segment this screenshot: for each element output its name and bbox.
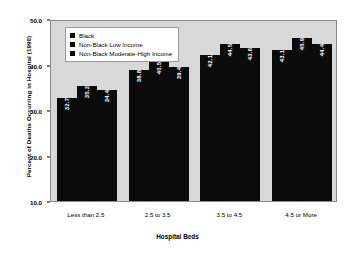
x-axis-title-text: Hospital Beds — [156, 233, 199, 240]
bar: 34.4 — [97, 90, 117, 201]
bar-value-label: 44.5 — [227, 44, 233, 56]
x-tick-label: 2.5 to 3.5 — [145, 211, 171, 218]
bar: 44.4 — [312, 44, 332, 201]
y-tick-label: 20.0 — [12, 153, 42, 160]
bar-group: 43.145.944.4 — [272, 21, 332, 201]
bar-group: 42.144.543.6 — [200, 21, 260, 201]
y-tick-label: 10.0 — [12, 199, 42, 206]
bar-value-label: 42.1 — [207, 55, 213, 67]
bar-value-label: 43.6 — [247, 48, 253, 60]
bar-value-label: 38.8 — [136, 70, 142, 82]
chart-figure: Percent of Deaths Occurring in Hospital … — [0, 0, 355, 257]
bar: 38.8 — [129, 70, 149, 201]
bar-value-label: 40.5 — [156, 62, 162, 74]
legend-label: Non-Black Low Income — [79, 40, 143, 49]
chart-legend: Black Non-Black Low Income Non-Black Mod… — [65, 27, 179, 62]
plot-area: 32.735.234.438.840.539.442.144.543.643.1… — [50, 20, 337, 202]
bar-value-label: 44.4 — [319, 44, 325, 56]
legend-item: Black — [70, 31, 172, 40]
y-axis-ticks: 50.040.030.020.010.0 — [0, 0, 50, 257]
bar: 40.5 — [149, 62, 169, 201]
bar: 43.6 — [240, 48, 260, 201]
bar: 43.1 — [272, 50, 292, 201]
bar-value-label: 34.4 — [104, 90, 110, 102]
y-tick-label: 30.0 — [12, 108, 42, 115]
y-tick-label: 40.0 — [12, 62, 42, 69]
legend-swatch-icon — [70, 42, 75, 47]
bar-value-label: 43.1 — [279, 50, 285, 62]
legend-swatch-icon — [70, 33, 75, 38]
legend-swatch-icon — [70, 51, 75, 56]
bar-value-label: 32.7 — [64, 97, 70, 109]
bar-value-label: 35.2 — [84, 86, 90, 98]
x-tick-label: 3.5 to 4.5 — [216, 211, 242, 218]
legend-item: Non-Black Low Income — [70, 40, 172, 49]
bar: 32.7 — [57, 98, 77, 201]
bar: 42.1 — [200, 55, 220, 201]
bar: 39.4 — [169, 67, 189, 201]
bar: 35.2 — [77, 86, 97, 201]
legend-label: Non-Black Moderate-High Income — [79, 49, 172, 58]
bar: 44.5 — [220, 44, 240, 201]
legend-label: Black — [79, 31, 94, 40]
legend-item: Non-Black Moderate-High Income — [70, 49, 172, 58]
x-axis-title: Hospital Beds — [0, 233, 355, 240]
bar: 45.9 — [292, 38, 312, 201]
y-tick-label: 50.0 — [12, 17, 42, 24]
bar-value-label: 39.4 — [176, 67, 182, 79]
x-tick-label: Less than 2.5 — [67, 211, 104, 218]
bar-value-label: 45.9 — [299, 37, 305, 49]
x-tick-label: 4.5 or More — [285, 211, 317, 218]
